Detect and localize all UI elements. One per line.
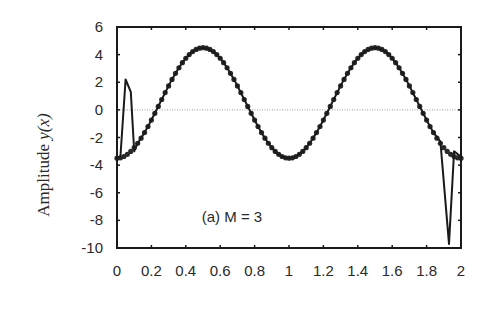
x-tick-label: 1 <box>285 262 293 279</box>
y-tick-label: -8 <box>90 211 103 228</box>
data-markers <box>114 45 463 161</box>
x-tick-label: 0.2 <box>141 262 162 279</box>
x-tick-labels: 00.20.40.60.811.21.41.61.82 <box>113 262 465 279</box>
approximation-line <box>117 48 461 244</box>
y-tick-label: 4 <box>95 46 103 63</box>
x-tick-label: 2 <box>457 262 465 279</box>
x-tick-label: 0 <box>113 262 121 279</box>
y-tick-label: -10 <box>81 239 103 256</box>
panel-annotation: (a) M = 3 <box>202 208 262 225</box>
axis-ticks <box>117 27 461 248</box>
y-tick-label: 6 <box>95 18 103 35</box>
x-tick-label: 1.4 <box>347 262 368 279</box>
x-tick-label: 0.6 <box>210 262 231 279</box>
x-tick-label: 1.8 <box>416 262 437 279</box>
y-tick-label: -4 <box>90 156 103 173</box>
x-tick-label: 1.2 <box>313 262 334 279</box>
y-tick-label: -2 <box>90 129 103 146</box>
y-tick-labels: 6420-2-4-6-8-10 <box>81 18 103 256</box>
y-tick-label: 2 <box>95 73 103 90</box>
chart: 6420-2-4-6-8-10 00.20.40.60.811.21.41.61… <box>0 0 491 322</box>
y-tick-label: -6 <box>90 184 103 201</box>
x-tick-label: 0.8 <box>244 262 265 279</box>
x-tick-label: 1.6 <box>382 262 403 279</box>
y-axis-label: Amplitude y(x) <box>34 113 53 217</box>
y-tick-label: 0 <box>95 101 103 118</box>
plot-frame <box>117 27 461 248</box>
x-tick-label: 0.4 <box>175 262 196 279</box>
